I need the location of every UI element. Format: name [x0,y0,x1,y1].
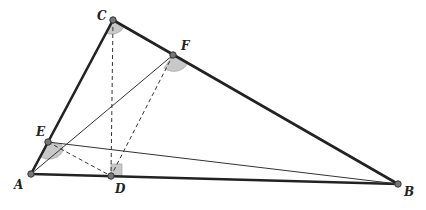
label-b: B [403,185,414,199]
point-f [170,52,176,58]
label-d: D [114,182,126,196]
label-c: C [97,9,107,23]
segment-ac [31,20,113,174]
geometry-diagram: A B C D E F [0,0,426,210]
segment-cd [111,20,113,176]
point-e [45,139,51,145]
segment-ab [31,174,398,184]
segment-eb [48,142,398,184]
point-a [28,171,34,177]
point-c [110,17,116,23]
segment-af [31,55,173,174]
point-d [108,173,114,179]
segment-cb [113,20,398,184]
point-b [395,181,401,187]
label-e: E [35,125,46,139]
label-f: F [180,39,191,53]
label-a: A [13,178,23,192]
segment-ed [48,142,111,176]
segment-fd [111,55,173,176]
